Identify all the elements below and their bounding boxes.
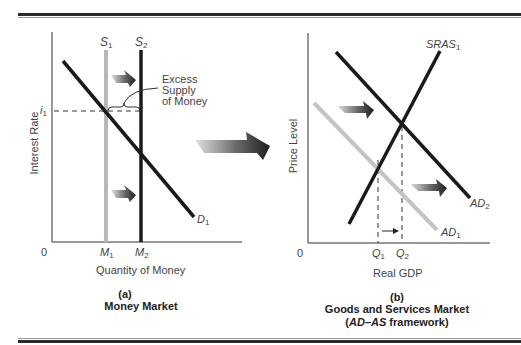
big-transmission-arrow [195,132,270,160]
sras1-label: SRAS1 [426,38,460,52]
ad1-label: AD1 [441,226,461,240]
y-axis-title-b: Price Level [287,106,299,186]
x-axis-title-a: Quantity of Money [96,264,185,276]
s1-label: S1 [100,35,112,50]
caption-title-b: Goods and Services Market [297,303,497,315]
i1-label: i1 [40,104,47,118]
origin-label-a: 0 [41,246,47,258]
caption-letter-a: (a) [105,288,145,300]
caption-title-a: Money Market [81,300,201,312]
y-axis-title-a: Interest Rate [28,103,40,183]
sras1-curve [349,51,440,224]
m1-label: M1 [100,246,114,260]
excess-supply-annotation: Excess Supply of Money [162,74,207,107]
excess-supply-bracket [108,103,140,111]
money-market-graph [52,32,242,242]
ad-shift-arrow-lower [410,179,447,197]
caption-subtitle-b: (AD–AS framework) [297,316,497,328]
shift-arrow-upper [111,70,136,87]
ad-as-graph [308,33,490,243]
q2-label: Q2 [396,247,409,261]
q1-label: Q1 [372,247,385,261]
origin-label-b: 0 [297,247,303,259]
ad2-label: AD2 [470,197,490,211]
shift-arrow-lower [111,185,136,202]
m2-label: M2 [135,246,149,260]
ad-shift-arrow-upper [337,101,374,119]
caption-letter-b: (b) [377,291,417,303]
s2-label: S2 [135,35,147,50]
x-axis-title-b: Real GDP [373,267,423,279]
d1-label: D1 [197,213,209,227]
ad1-curve [314,103,437,230]
